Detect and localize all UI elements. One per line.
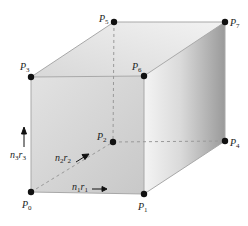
vertex-p3 <box>28 74 34 80</box>
label-p7: P7 <box>229 17 240 30</box>
label-p1: P1 <box>137 201 148 214</box>
vertex-p1 <box>141 191 147 197</box>
label-n3r3: n3r3 <box>10 149 26 162</box>
arrowhead-n3r3-icon <box>22 127 27 134</box>
vertex-p6 <box>141 73 147 79</box>
label-p3: P3 <box>19 61 30 74</box>
vertex-p4 <box>222 138 228 144</box>
label-p0: P0 <box>21 199 32 212</box>
cube-diagram: P0 P1 P2 P3 P4 P5 P6 P7 n1r1 n2r2 n3r3 <box>0 0 248 226</box>
vertex-p0 <box>28 189 34 195</box>
vertex-p5 <box>111 19 117 25</box>
label-p4: P4 <box>229 137 240 150</box>
vertex-p7 <box>222 19 228 25</box>
vertex-p2 <box>110 139 116 145</box>
label-p5: P5 <box>98 13 109 26</box>
front-face <box>31 76 144 194</box>
